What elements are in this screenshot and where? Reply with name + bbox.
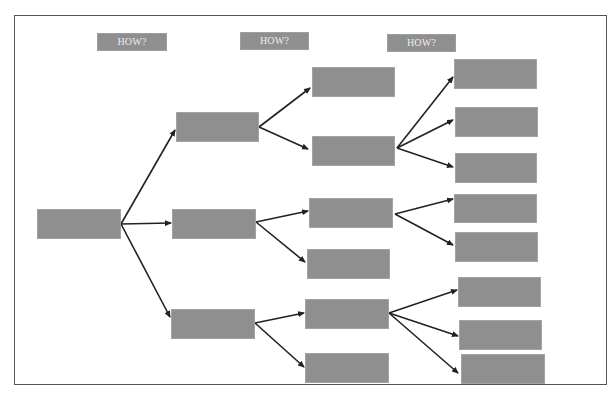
node-box-level3-b1x bbox=[454, 194, 537, 223]
how-header-2: HOW? bbox=[240, 32, 309, 50]
node-box-level3-a2y bbox=[455, 107, 538, 137]
how-header-1: HOW? bbox=[97, 33, 167, 51]
node-box-level3-c1z bbox=[461, 354, 545, 384]
node-box-level2-b1 bbox=[309, 198, 393, 228]
node-box-level2-c1 bbox=[305, 299, 389, 329]
node-box-level1-a bbox=[176, 112, 259, 142]
node-box-level2-a1 bbox=[312, 67, 395, 97]
node-box-level1-b bbox=[172, 209, 256, 239]
node-box-level2-a2 bbox=[312, 136, 395, 166]
how-header-3: HOW? bbox=[387, 34, 456, 52]
node-box-level3-a2z bbox=[455, 153, 537, 183]
node-box-level3-c1x bbox=[458, 277, 541, 307]
node-box-level3-c1y bbox=[459, 320, 542, 350]
node-box-level3-b1y bbox=[455, 232, 538, 262]
node-box-level2-b2 bbox=[307, 249, 390, 279]
node-box-level1-c bbox=[171, 309, 255, 339]
node-box-level0-root bbox=[37, 209, 121, 239]
node-box-level3-a2x bbox=[454, 59, 537, 89]
node-box-level2-c2 bbox=[305, 353, 389, 383]
